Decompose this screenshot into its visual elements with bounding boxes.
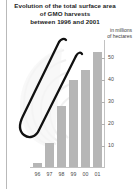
bar-00 [81, 70, 90, 167]
bar-99 [69, 80, 78, 167]
y-tick-label-30: 30 [108, 99, 114, 104]
bar-96 [33, 163, 42, 167]
y-axis-line [104, 40, 105, 168]
plot-area: 50 40 30 20 10 96 97 98 99 00 01 [0, 0, 135, 189]
x-axis-line [30, 167, 105, 168]
chart-figure: Evolution of the total surface area of G… [0, 0, 135, 189]
y-tick-label-10: 10 [108, 143, 114, 148]
bar-98 [57, 106, 66, 167]
bar-97 [45, 143, 54, 167]
y-tick-label-20: 20 [108, 121, 114, 126]
bar-01 [93, 52, 102, 167]
x-tick-label-01: 01 [91, 171, 105, 177]
y-tick-label-40: 40 [108, 77, 114, 82]
y-tick-label-50: 50 [108, 55, 114, 60]
